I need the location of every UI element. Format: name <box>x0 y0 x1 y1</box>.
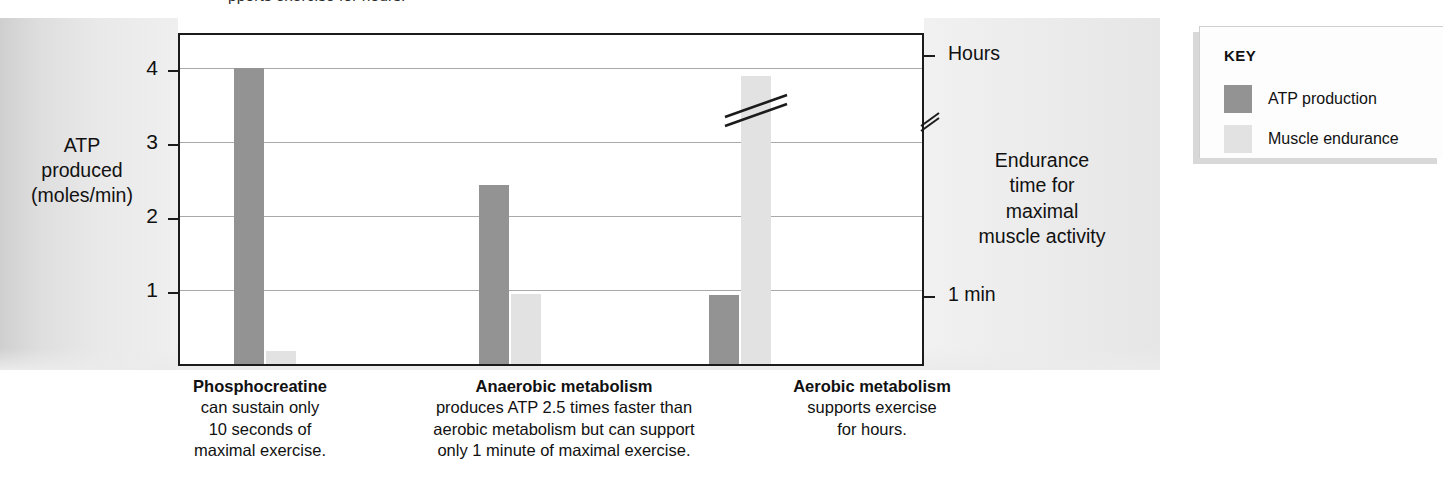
gridline <box>180 290 922 291</box>
y-axis-tick-label: 2 <box>130 205 158 226</box>
axis-break-icon <box>918 104 944 138</box>
key-title: KEY <box>1224 47 1256 64</box>
bar-atp-production <box>709 295 739 364</box>
caption-line: maximal exercise. <box>194 441 326 459</box>
bar-muscle-endurance <box>741 76 771 364</box>
key-item-atp-production: ATP production <box>1224 85 1377 113</box>
gridline <box>180 216 922 217</box>
gridline <box>180 142 922 143</box>
y-axis-tick-label: 3 <box>130 131 158 152</box>
y-axis-title-line-2: produced <box>6 158 158 183</box>
caption-line: produces ATP 2.5 times faster than <box>436 398 692 416</box>
caption-heading: Anaerobic metabolism <box>378 376 750 397</box>
figure: ATP produced (moles/min) Endurance time … <box>0 18 1160 370</box>
caption-line: aerobic metabolism but can support <box>433 420 694 438</box>
category-caption-aerobic-metabolism: Aerobic metabolism supports exercise for… <box>752 376 992 440</box>
key-swatch-muscle-endurance <box>1224 125 1252 153</box>
key-swatch-atp-production <box>1224 85 1252 113</box>
caption-line: can sustain only <box>201 398 319 416</box>
category-caption-anaerobic-metabolism: Anaerobic metabolism produces ATP 2.5 ti… <box>378 376 750 462</box>
gridline <box>180 68 922 69</box>
caption-line: for hours. <box>837 420 907 438</box>
y-axis-tick <box>168 218 179 220</box>
y-axis-tick <box>168 144 179 146</box>
category-caption-phosphocreatine: Phosphocreatine can sustain only 10 seco… <box>150 376 370 462</box>
right-axis-title-line-2: time for <box>944 173 1140 198</box>
key-item-muscle-endurance: Muscle endurance <box>1224 125 1399 153</box>
caption-line: supports exercise <box>807 398 936 416</box>
bar-muscle-endurance <box>511 294 541 364</box>
bar-atp-production <box>234 68 264 364</box>
right-axis-tick-label: 1 min <box>948 282 996 307</box>
y-axis-tick-label: 1 <box>130 279 158 300</box>
right-axis-tick-label: Hours <box>948 41 1000 66</box>
caption-heading: Phosphocreatine <box>150 376 370 397</box>
caption-heading: Aerobic metabolism <box>752 376 992 397</box>
caption-line: 10 seconds of <box>209 420 312 438</box>
right-axis-title: Endurance time for maximal muscle activi… <box>944 148 1140 249</box>
bar-atp-production <box>479 185 509 364</box>
y-axis-tick <box>168 70 179 72</box>
caption-line: only 1 minute of maximal exercise. <box>437 441 690 459</box>
right-axis-tick <box>924 296 935 298</box>
key-box: KEY ATP production Muscle endurance <box>1199 26 1443 158</box>
y-axis-title-line-3: (moles/min) <box>6 183 158 208</box>
bar-muscle-endurance <box>266 351 296 364</box>
key-label: ATP production <box>1268 90 1377 108</box>
right-axis-tick <box>924 55 935 57</box>
y-axis-tick <box>168 292 179 294</box>
y-axis-tick-label: 4 <box>130 57 158 78</box>
right-axis-title-line-3: maximal <box>944 199 1140 224</box>
right-axis-title-line-1: Endurance <box>944 148 1140 173</box>
clipped-top-caption-fragment: pports exercise for hours. <box>228 0 405 5</box>
right-axis-title-line-4: muscle activity <box>944 224 1140 249</box>
key-label: Muscle endurance <box>1268 130 1399 148</box>
plot-area <box>178 33 924 366</box>
plot-inner <box>180 35 922 364</box>
